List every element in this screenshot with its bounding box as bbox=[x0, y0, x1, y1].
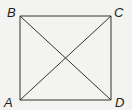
square-diagram: B C A D bbox=[0, 0, 132, 110]
vertex-label-c: C bbox=[114, 5, 124, 20]
vertex-label-d: D bbox=[115, 95, 124, 110]
vertex-label-b: B bbox=[7, 5, 16, 20]
vertex-label-a: A bbox=[3, 95, 13, 110]
